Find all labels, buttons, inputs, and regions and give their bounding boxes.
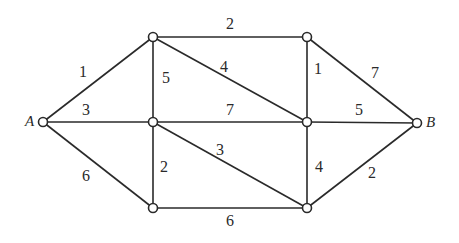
edge-A-T1 [43, 37, 153, 122]
edge-weight-label: 2 [226, 15, 234, 32]
node-B2 [303, 204, 312, 213]
graph-diagram: 136254723617542 AB [0, 0, 459, 243]
edge-M2-B [307, 122, 417, 123]
node-label-B: B [426, 114, 435, 130]
edge-B2-B [307, 123, 417, 208]
edge-weight-label: 2 [368, 164, 376, 181]
edge-weight-label: 7 [371, 64, 379, 81]
edge-weight-label: 5 [355, 101, 363, 118]
edge-weight-label: 4 [315, 158, 323, 175]
edge-weight-label: 3 [82, 101, 90, 118]
node-M1 [149, 118, 158, 127]
node-A [39, 118, 48, 127]
node-T2 [303, 33, 312, 42]
node-M2 [303, 118, 312, 127]
edge-weight-label: 1 [314, 60, 322, 77]
edges-layer [43, 37, 417, 208]
edge-weight-label: 2 [160, 158, 168, 175]
node-T1 [149, 33, 158, 42]
edge-weight-label: 3 [216, 141, 224, 158]
edge-weight-label: 6 [82, 167, 90, 184]
node-label-A: A [24, 113, 35, 129]
node-B [413, 119, 422, 128]
edge-weight-label: 1 [79, 63, 87, 80]
edge-M1-B2 [153, 122, 307, 208]
edge-A-B1 [43, 122, 153, 208]
edge-weight-label: 7 [226, 101, 234, 118]
node-B1 [149, 204, 158, 213]
edge-weight-label: 6 [226, 212, 234, 229]
edge-weight-label: 4 [220, 58, 228, 75]
edge-weight-label: 5 [162, 69, 170, 86]
